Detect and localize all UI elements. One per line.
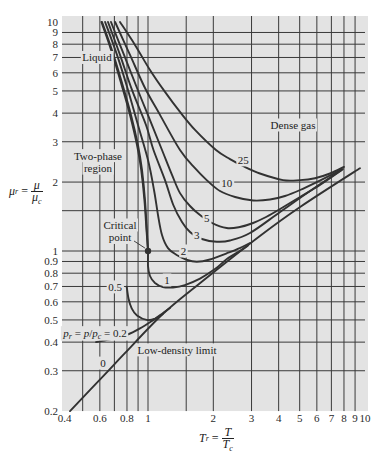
- x-tick-label: 0.4: [58, 412, 72, 424]
- x-tick-label: 7: [329, 412, 335, 424]
- x-axis-title-lhs: T: [199, 431, 206, 446]
- annotation-text: Liquid: [82, 51, 112, 63]
- x-axis-title-den-sub: c: [229, 444, 233, 453]
- annotation-text: point: [109, 231, 132, 243]
- annotation-text: Dense gas: [271, 119, 316, 131]
- x-tick-label: 9: [352, 412, 358, 424]
- x-axis-title-denominator: Tc: [222, 438, 234, 450]
- curve-label-p-r-0.5: 0.5: [108, 281, 122, 293]
- x-axis-title-fraction: T Tc: [222, 427, 234, 450]
- annotation-text: Critical: [104, 219, 137, 231]
- y-tick-label: 7: [53, 51, 59, 63]
- critical-point-dot: [145, 248, 151, 254]
- y-tick-label: 0.7: [44, 280, 58, 292]
- generalized-viscosity-chart: 0pr = p/pc = 0.20.512351025LiquidTwo-pha…: [0, 0, 382, 455]
- curve-label-p-r-5: 5: [204, 212, 210, 224]
- annotation-liquid: Liquid: [81, 51, 114, 64]
- annotation-dense-gas: Dense gas: [269, 118, 317, 131]
- x-tick-label: 0.6: [93, 412, 107, 424]
- curve-label-p-r-2: 2: [181, 245, 187, 257]
- curve-label-p-r-10: 10: [221, 177, 233, 189]
- y-tick-label: 0.6: [44, 296, 58, 308]
- x-tick-label: 10: [360, 412, 372, 424]
- y-axis-title: μr = μ μc: [9, 180, 43, 203]
- x-axis-title: Tr = T Tc: [199, 427, 234, 450]
- x-axis-tick-labels: 0.40.60.812345678910: [58, 412, 371, 424]
- y-tick-label: 0.9: [44, 255, 58, 267]
- x-tick-label: 3: [249, 412, 255, 424]
- y-axis-tick-labels: 109876543210.90.80.70.60.50.40.30.2: [44, 16, 58, 417]
- y-tick-label: 3: [53, 136, 59, 148]
- y-tick-label: 8: [53, 38, 59, 50]
- y-axis-title-den-sub: c: [38, 197, 42, 206]
- x-axis-title-equals: =: [212, 431, 219, 446]
- x-tick-label: 8: [341, 412, 347, 424]
- annotation-low-density-limit: Low-density limit: [136, 343, 218, 356]
- y-axis-title-equals: =: [21, 184, 28, 199]
- curve-label-p-r-0-low-density-limit-: 0: [100, 357, 106, 369]
- x-tick-label: 2: [211, 412, 217, 424]
- y-tick-label: 0.5: [44, 314, 58, 326]
- annotation-text: Two-phase: [74, 150, 122, 162]
- y-tick-label: 0.4: [44, 336, 58, 348]
- annotation-text: region: [84, 162, 113, 174]
- x-tick-label: 5: [297, 412, 303, 424]
- annotation-text: Low-density limit: [137, 344, 216, 356]
- y-tick-label: 0.8: [44, 267, 58, 279]
- y-axis-title-denominator: μc: [31, 191, 43, 203]
- y-axis-title-fraction: μ μc: [31, 180, 43, 203]
- curve-label-p-r-1: 1: [164, 274, 170, 286]
- label-segment: = 0.2: [101, 327, 126, 339]
- curve-label-p-r-25: 25: [238, 154, 250, 166]
- curve-label-p-r-0.2: pr = p/pc = 0.2: [62, 327, 126, 341]
- y-tick-label: 4: [53, 107, 59, 119]
- x-tick-label: 0.8: [120, 412, 134, 424]
- y-tick-label: 2: [53, 176, 59, 188]
- x-tick-label: 1: [145, 412, 151, 424]
- label-segment: =: [72, 327, 84, 339]
- y-tick-label: 9: [53, 26, 59, 38]
- y-tick-label: 5: [53, 85, 59, 97]
- y-tick-label: 0.3: [44, 365, 58, 377]
- y-tick-label: 6: [53, 67, 59, 79]
- y-tick-label: 0.2: [44, 405, 58, 417]
- x-tick-label: 6: [314, 412, 320, 424]
- curve-label-p-r-3: 3: [194, 229, 200, 241]
- x-tick-label: 4: [276, 412, 282, 424]
- annotation-critical-point: Criticalpoint: [102, 218, 138, 244]
